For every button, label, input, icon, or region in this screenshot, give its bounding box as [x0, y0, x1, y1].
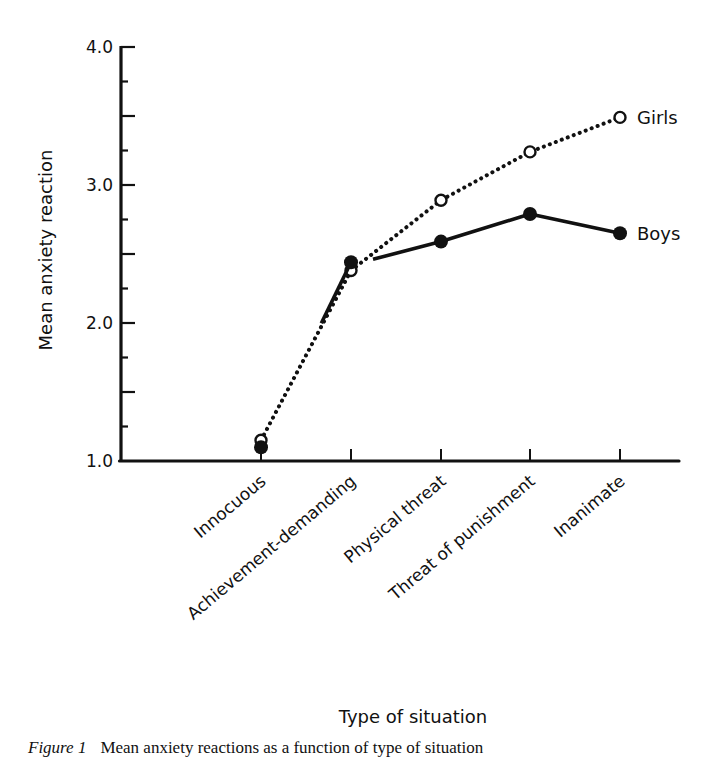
y-tick-label: 1.0 — [86, 451, 113, 471]
x-tick-label: Threat of punishment — [384, 471, 539, 605]
x-axis-ticks: InnocuousAchievement-demandingPhysical t… — [183, 449, 629, 624]
x-tick-label: Achievement-demanding — [183, 471, 360, 624]
y-axis-ticks: 1.02.03.04.0 — [86, 37, 135, 471]
x-tick-label: Inanimate — [550, 471, 629, 541]
y-tick-label: 2.0 — [86, 313, 113, 333]
y-tick-label: 4.0 — [86, 37, 113, 57]
figure-number: Figure 1 — [28, 738, 86, 757]
line-chart: 1.02.03.04.0 InnocuousAchievement-demand… — [0, 0, 721, 766]
chart-legend: GirlsBoys — [637, 107, 680, 244]
y-tick-label: 3.0 — [86, 175, 113, 195]
data-point-open — [525, 146, 536, 157]
legend-label-boys: Boys — [637, 223, 680, 244]
data-point-filled — [613, 226, 627, 240]
data-point-filled — [344, 255, 358, 269]
data-point-filled — [523, 207, 537, 221]
data-point-filled — [254, 440, 268, 454]
figure-caption-text: Mean anxiety reactions as a function of … — [100, 738, 483, 757]
figure-caption: Figure 1Mean anxiety reactions as a func… — [28, 738, 483, 758]
series-boys — [254, 207, 627, 454]
series-girls — [256, 112, 626, 446]
legend-label-girls: Girls — [637, 107, 678, 128]
series-line — [261, 117, 620, 440]
chart-series — [254, 112, 627, 454]
data-point-open — [615, 112, 626, 123]
x-axis-title: Type of situation — [338, 706, 488, 727]
data-point-filled — [434, 235, 448, 249]
series-line — [321, 262, 351, 323]
series-line — [373, 214, 620, 259]
y-axis-title: Mean anxiety reaction — [35, 150, 56, 351]
data-point-open — [436, 195, 447, 206]
x-tick-label: Innocuous — [190, 471, 270, 542]
